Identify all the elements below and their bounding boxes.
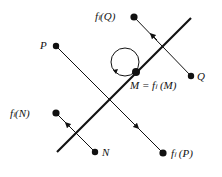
label-p: P [40, 40, 47, 51]
label-m: M = fₗ (M) [130, 80, 176, 91]
label-fn: fₗ(N) [10, 108, 30, 119]
point-fn [52, 109, 59, 116]
point-fp [159, 149, 166, 156]
point-n [92, 149, 98, 155]
label-q: Q [197, 71, 205, 82]
point-q [188, 73, 194, 79]
point-fq [130, 13, 137, 20]
arrow-p-icon [132, 122, 137, 127]
label-fp: fₗ (P) [171, 148, 193, 159]
arrow-q-icon [152, 35, 157, 40]
label-n: N [102, 147, 109, 158]
arrow-n-icon [67, 124, 72, 129]
point-m [132, 68, 140, 76]
label-fq: fₗ(Q) [95, 11, 115, 22]
point-p [53, 43, 59, 49]
